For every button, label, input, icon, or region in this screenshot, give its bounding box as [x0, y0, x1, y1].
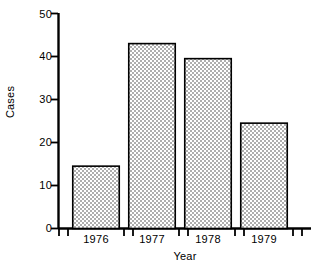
x-tick-label-1976: 1976	[71, 233, 121, 245]
x-axis-title: Year	[60, 250, 310, 262]
x-tick-label-1977: 1977	[127, 233, 177, 245]
x-tick-label-1978: 1978	[183, 233, 233, 245]
y-axis-title: Cases	[4, 72, 16, 132]
y-tick-label: 0	[30, 223, 52, 234]
bar-chart: 0 10 20 30 40 50 1976 1977 1978 1979 Cas…	[0, 0, 317, 273]
x-tick-label-1979: 1979	[239, 233, 289, 245]
y-tick-label: 20	[30, 137, 52, 148]
bar-1978	[185, 59, 232, 229]
y-tick-label: 50	[30, 9, 52, 20]
y-tick-labels: 0 10 20 30 40 50	[30, 0, 52, 273]
bar-1979	[241, 123, 288, 228]
y-axis-ticks	[51, 14, 58, 229]
y-tick-label: 30	[30, 94, 52, 105]
bar-1976	[73, 166, 120, 228]
bar-group	[73, 44, 288, 229]
bar-1977	[129, 44, 176, 229]
y-tick-label: 40	[30, 51, 52, 62]
y-tick-label: 10	[30, 180, 52, 191]
